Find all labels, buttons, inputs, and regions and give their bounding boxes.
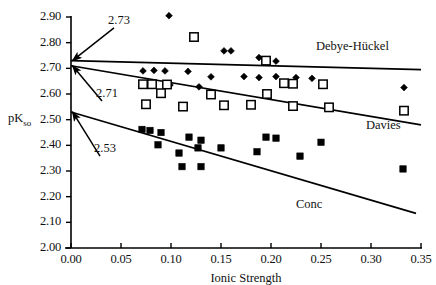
annotation-label-2-53: 2.53 xyxy=(94,141,116,156)
data-point-debye-h-ckel xyxy=(241,73,248,80)
data-point-conc xyxy=(158,129,164,135)
data-points-group xyxy=(139,12,408,172)
y-axis-tick-label: 2.90 xyxy=(19,9,61,24)
data-point-conc xyxy=(147,127,153,133)
data-point-conc xyxy=(297,153,303,159)
y-axis-title-subscript: so xyxy=(23,117,31,127)
y-axis-tick-label: 2.70 xyxy=(19,60,61,75)
trend-line-davies xyxy=(71,66,421,125)
data-point-davies xyxy=(163,80,171,88)
y-axis-title-base: pK xyxy=(8,111,23,125)
trend-line-debye-h-ckel xyxy=(71,61,421,70)
data-point-debye-h-ckel xyxy=(162,68,169,75)
data-point-debye-h-ckel xyxy=(151,67,158,74)
y-axis-tick-label: 2.20 xyxy=(19,189,61,204)
x-axis-tick-label: 0.15 xyxy=(198,252,244,267)
y-axis-tick-label: 2.40 xyxy=(19,137,61,152)
data-point-conc xyxy=(218,145,224,151)
series-label-debye-h-ckel: Debye-Hückel xyxy=(316,39,389,54)
x-axis-title: Ionic Strength xyxy=(166,271,326,285)
series-label-davies: Davies xyxy=(366,118,401,133)
data-point-conc xyxy=(263,134,269,140)
x-axis-tick-label: 0.35 xyxy=(398,252,436,267)
data-point-conc xyxy=(195,145,201,151)
data-point-debye-h-ckel xyxy=(309,75,316,82)
data-point-debye-h-ckel xyxy=(166,12,173,19)
data-point-davies xyxy=(142,100,150,108)
data-point-conc xyxy=(254,149,260,155)
data-point-davies xyxy=(220,101,228,109)
data-point-davies xyxy=(289,80,297,88)
data-point-davies xyxy=(148,80,156,88)
data-point-debye-h-ckel xyxy=(273,58,280,65)
y-axis-title: pKso xyxy=(8,111,31,128)
data-point-conc xyxy=(179,163,185,169)
data-point-davies xyxy=(319,80,327,88)
annotation-arrow-2-73 xyxy=(73,28,115,61)
data-point-davies xyxy=(400,106,408,114)
data-point-debye-h-ckel xyxy=(228,47,235,54)
series-label-conc: Conc xyxy=(296,197,322,212)
data-point-davies xyxy=(207,90,215,98)
data-point-davies xyxy=(325,103,333,111)
y-axis-tick-label: 2.80 xyxy=(19,35,61,50)
data-point-davies xyxy=(247,101,255,109)
data-point-davies xyxy=(179,102,187,110)
x-axis-tick-label: 0.00 xyxy=(48,252,94,267)
data-point-conc xyxy=(273,135,279,141)
data-point-debye-h-ckel xyxy=(185,68,192,75)
y-axis-tick-label: 2.10 xyxy=(19,214,61,229)
data-point-debye-h-ckel xyxy=(140,68,147,75)
trend-line-conc xyxy=(71,112,416,213)
data-point-davies xyxy=(157,89,165,97)
annotation-label-2-71: 2.71 xyxy=(96,86,118,101)
x-axis-tick-label: 0.25 xyxy=(298,252,344,267)
x-axis-tick-label: 0.05 xyxy=(98,252,144,267)
data-point-conc xyxy=(198,137,204,143)
data-point-conc xyxy=(318,139,324,145)
y-axis-tick-label: 2.60 xyxy=(19,86,61,101)
x-axis-tick-label: 0.30 xyxy=(348,252,394,267)
data-point-davies xyxy=(280,79,288,87)
data-point-conc xyxy=(139,126,145,132)
data-point-conc xyxy=(155,142,161,148)
data-point-conc xyxy=(186,134,192,140)
chart-container: 2.902.802.702.602.502.402.302.202.102.00… xyxy=(0,0,436,285)
data-point-debye-h-ckel xyxy=(208,73,215,80)
fit-lines-group xyxy=(71,61,421,214)
data-point-conc xyxy=(400,166,406,172)
data-point-debye-h-ckel xyxy=(196,83,203,90)
data-point-davies xyxy=(139,80,147,88)
data-point-debye-h-ckel xyxy=(256,74,263,81)
data-point-davies xyxy=(263,90,271,98)
data-point-debye-h-ckel xyxy=(221,47,228,54)
data-point-conc xyxy=(176,150,182,156)
x-axis-tick-label: 0.10 xyxy=(148,252,194,267)
data-point-davies xyxy=(262,56,270,64)
annotation-label-2-73: 2.73 xyxy=(108,13,130,28)
data-point-davies xyxy=(289,102,297,110)
x-axis-tick-label: 0.20 xyxy=(248,252,294,267)
data-point-debye-h-ckel xyxy=(273,73,280,80)
y-axis-tick-label: 2.30 xyxy=(19,163,61,178)
data-point-davies xyxy=(190,33,198,41)
data-point-conc xyxy=(198,163,204,169)
data-point-debye-h-ckel xyxy=(401,84,408,91)
